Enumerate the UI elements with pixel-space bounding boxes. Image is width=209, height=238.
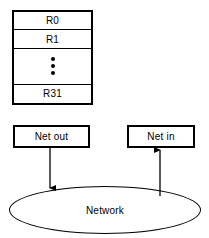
vertical-ellipsis-icon [51, 49, 55, 84]
net-out-label: Net out [35, 131, 69, 142]
register-label-r1: R1 [46, 34, 59, 45]
net-in-box: Net in [127, 125, 195, 148]
register-row-r1: R1 [14, 30, 91, 48]
register-row-ellipsis [14, 49, 91, 85]
ellipsis-dot [51, 64, 55, 68]
register-label-r0: R0 [46, 15, 59, 26]
ellipsis-dot [51, 71, 55, 75]
net-out-box: Net out [13, 125, 90, 148]
register-row-r0: R0 [14, 12, 91, 30]
ellipsis-dot [51, 57, 55, 61]
register-row-r31: R31 [14, 85, 91, 103]
register-label-r31: R31 [43, 88, 62, 99]
net-in-label: Net in [147, 131, 174, 142]
diagram-canvas: R0 R1 R31 Net out Net in Network [0, 0, 209, 238]
register-file: R0 R1 R31 [12, 10, 93, 105]
network-oval: Network [9, 186, 201, 234]
network-label: Network [86, 205, 124, 216]
